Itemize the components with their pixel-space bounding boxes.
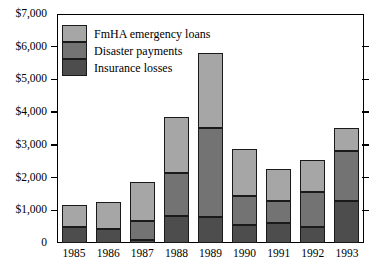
bar-segment [300, 160, 325, 192]
bar-segment [96, 229, 121, 243]
bar-group [232, 149, 257, 243]
bar-segment [266, 201, 291, 223]
x-axis-tick-label: 1989 [199, 246, 222, 260]
y-axis-tick-mark [51, 79, 58, 81]
y-axis-tick-mark [51, 177, 58, 179]
y-axis-tick-label: $6,000 [15, 41, 47, 53]
y-axis-tick-label: 0 [41, 237, 47, 249]
legend-item-label: FmHA emergency loans [94, 28, 210, 40]
legend-swatch-icon [62, 25, 87, 42]
bar-segment [266, 223, 291, 243]
bar-segment [198, 128, 223, 217]
legend-item: Insurance losses [62, 59, 252, 76]
bar-segment [334, 128, 359, 151]
x-axis-tick-label: 1990 [233, 246, 256, 260]
y-axis-tick-label: $2,000 [15, 172, 47, 184]
bar-segment [334, 151, 359, 201]
y-axis-tick-mark-right [362, 46, 369, 48]
bar-segment [232, 225, 257, 243]
y-axis-tick-mark-right [362, 177, 369, 179]
x-axis-tick-label: 1992 [301, 246, 324, 260]
bar-segment [232, 149, 257, 196]
bar-group [334, 128, 359, 243]
legend-item-label: Disaster payments [94, 45, 182, 57]
bar-group [164, 117, 189, 243]
bar-segment [164, 216, 189, 243]
y-axis-tick-mark-right [362, 111, 369, 113]
y-axis: 0$1,000$2,000$3,000$4,000$5,000$6,000$7,… [0, 0, 57, 276]
y-axis-tick-mark [51, 144, 58, 146]
bar-segment [198, 217, 223, 243]
legend-swatch-icon [62, 42, 87, 59]
bar-segment [300, 227, 325, 243]
bar-segment [334, 201, 359, 243]
y-axis-tick-label: $1,000 [15, 205, 47, 217]
bar-segment [164, 173, 189, 216]
bar-segment [62, 227, 87, 243]
bar-group [62, 205, 87, 243]
bar-segment [266, 169, 291, 201]
bar-segment [130, 182, 155, 221]
y-axis-tick-mark-right [362, 79, 369, 81]
bar-segment [96, 202, 121, 228]
y-axis-tick-mark [51, 111, 58, 113]
stacked-bar-chart: 0$1,000$2,000$3,000$4,000$5,000$6,000$7,… [0, 0, 377, 276]
legend-swatch-icon [62, 59, 87, 76]
bar-segment [300, 192, 325, 227]
bar-group [130, 182, 155, 244]
y-axis-tick-label: $3,000 [15, 139, 47, 151]
bar-group [96, 202, 121, 243]
bar-segment [130, 240, 155, 243]
y-axis-tick-mark [51, 46, 58, 48]
bar-group [266, 169, 291, 243]
y-axis-tick-label: $4,000 [15, 106, 47, 118]
bar-group [300, 160, 325, 243]
x-axis-tick-label: 1985 [63, 246, 86, 260]
x-axis-tick-label: 1993 [335, 246, 358, 260]
bar-segment [164, 117, 189, 173]
x-axis-tick-label: 1987 [131, 246, 154, 260]
bar-segment [232, 196, 257, 226]
y-axis-tick-mark-right [362, 144, 369, 146]
chart-legend: FmHA emergency loansDisaster paymentsIns… [62, 25, 252, 76]
y-axis-tick-mark-right [362, 210, 369, 212]
x-axis-tick-label: 1988 [165, 246, 188, 260]
legend-item-label: Insurance losses [94, 62, 172, 74]
x-axis-tick-label: 1986 [97, 246, 120, 260]
y-axis-tick-label: $5,000 [15, 74, 47, 86]
bar-group [198, 53, 223, 243]
bar-segment [130, 221, 155, 240]
bar-segment [62, 205, 87, 227]
y-axis-tick-label: $7,000 [15, 8, 47, 20]
x-axis-tick-label: 1991 [267, 246, 290, 260]
legend-item: FmHA emergency loans [62, 25, 252, 42]
x-axis: 198519861987198819891990199119921993 [57, 246, 364, 268]
legend-item: Disaster payments [62, 42, 252, 59]
y-axis-tick-mark [51, 210, 58, 212]
